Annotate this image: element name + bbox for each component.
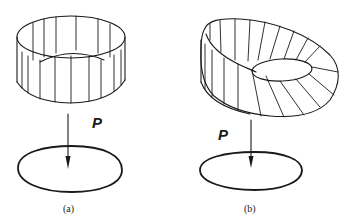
panel-b: P (b) (200, 19, 338, 215)
cylinder-band (17, 16, 125, 103)
projection-arrow-b (249, 120, 254, 168)
caption-a: (a) (63, 203, 74, 215)
annulus-rulings-back (210, 19, 320, 62)
panel-a: P (a) (17, 16, 125, 215)
map-label-p-a: P (92, 114, 103, 131)
annulus-inner-hole (251, 57, 312, 82)
caption-b: (b) (244, 203, 256, 215)
projection-arrow-a (66, 114, 71, 169)
annulus-bottom-rim (201, 82, 250, 114)
annulus-outer-rim (201, 19, 338, 117)
figure: P (a) (0, 0, 352, 224)
map-label-p-b: P (218, 126, 229, 143)
annulus-band (201, 19, 338, 117)
base-curve-a (18, 146, 122, 192)
